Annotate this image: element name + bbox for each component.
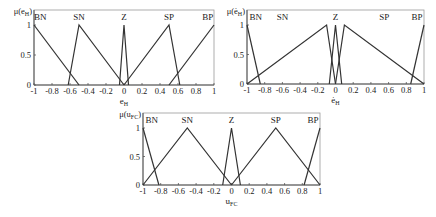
mf-sp	[336, 25, 425, 84]
mf-bn	[34, 25, 79, 85]
y-tick-label: 0.5	[20, 50, 31, 60]
x-tick-label: -0.8	[45, 86, 58, 96]
set-label-sn: SN	[277, 12, 289, 22]
set-label-bp: BP	[202, 12, 213, 22]
x-tick-label: 0.6	[173, 86, 184, 96]
mf-sn	[247, 25, 336, 84]
x-tick-label: 1	[422, 85, 426, 95]
x-axis-label: ėH	[331, 95, 340, 106]
x-tick-label: 0.8	[191, 86, 202, 96]
y-tick-label: 0	[240, 79, 244, 89]
x-tick-label: 1	[212, 86, 216, 96]
mf-bp	[304, 128, 320, 185]
x-tick-label: -1	[243, 85, 250, 95]
x-tick-label: -0.8	[258, 85, 271, 95]
x-axis-label: eH	[120, 96, 129, 107]
y-tick-label: 0.5	[233, 50, 244, 60]
membership-chart-2: -1-0.8-0.6-0.4-0.200.20.40.60.8100.51BNS…	[227, 6, 426, 106]
x-tick-label: -1	[30, 86, 37, 96]
mf-z	[120, 25, 129, 85]
x-tick-label: 0.8	[297, 186, 308, 196]
x-tick-label: -0.4	[81, 86, 95, 96]
set-label-z: Z	[121, 12, 127, 22]
mf-bp	[169, 25, 214, 85]
x-tick-label: 0	[122, 86, 126, 96]
set-label-bn: BN	[34, 12, 47, 22]
x-tick-label: 0.8	[401, 85, 412, 95]
mf-sp	[124, 25, 180, 85]
y-tick-label: 1	[136, 123, 140, 133]
mf-bn	[143, 128, 159, 185]
x-tick-label: 0	[333, 85, 337, 95]
x-tick-label: 0.4	[155, 86, 166, 96]
set-label-z: Z	[333, 12, 339, 22]
x-tick-label: 0.4	[262, 186, 273, 196]
mf-bp	[411, 25, 424, 84]
x-tick-label: -0.4	[293, 85, 307, 95]
set-label-bn: BN	[146, 115, 159, 125]
set-label-sp: SP	[164, 12, 174, 22]
set-label-sn: SN	[73, 12, 85, 22]
set-label-z: Z	[229, 115, 235, 125]
x-tick-label: 0.2	[348, 85, 359, 95]
y-tick-label: 0.5	[129, 152, 140, 162]
x-axis-label: uFC	[226, 196, 238, 207]
x-tick-label: -0.2	[311, 85, 324, 95]
x-tick-label: 0.6	[279, 186, 290, 196]
x-tick-label: -1	[139, 186, 146, 196]
set-label-sp: SP	[271, 115, 281, 125]
x-tick-label: 0.6	[383, 85, 394, 95]
x-tick-label: 1	[318, 186, 322, 196]
set-label-bn: BN	[250, 12, 263, 22]
x-tick-label: 0.2	[137, 86, 148, 96]
x-tick-label: 0.2	[244, 186, 255, 196]
set-label-bp: BP	[307, 115, 318, 125]
x-tick-label: -0.8	[154, 186, 167, 196]
x-tick-label: -0.6	[276, 85, 289, 95]
y-axis-label: μ(eH)	[14, 6, 33, 17]
membership-chart-3: -1-0.8-0.6-0.4-0.200.20.40.60.8100.51BNS…	[119, 109, 322, 207]
x-tick-label: -0.6	[172, 186, 185, 196]
set-label-bp: BP	[411, 12, 422, 22]
set-label-sn: SN	[181, 115, 193, 125]
y-axis-label: μ(ėH)	[227, 6, 246, 17]
y-axis-label: μ(uFC)	[119, 109, 141, 120]
membership-function-figure: -1-0.8-0.6-0.4-0.200.20.40.60.8100.51BNS…	[0, 0, 436, 217]
x-tick-label: -0.4	[189, 186, 203, 196]
y-tick-label: 1	[240, 20, 244, 30]
y-tick-label: 0	[27, 80, 31, 90]
set-label-sp: SP	[379, 12, 389, 22]
x-tick-label: -0.6	[63, 86, 76, 96]
x-tick-label: -0.2	[207, 186, 220, 196]
y-tick-label: 0	[136, 180, 140, 190]
x-tick-label: 0.4	[366, 85, 377, 95]
mf-sn	[68, 25, 124, 85]
y-tick-label: 1	[27, 20, 31, 30]
x-tick-label: -0.2	[99, 86, 112, 96]
x-tick-label: 0	[229, 186, 233, 196]
membership-chart-1: -1-0.8-0.6-0.4-0.200.20.40.60.8100.51BNS…	[14, 6, 216, 107]
